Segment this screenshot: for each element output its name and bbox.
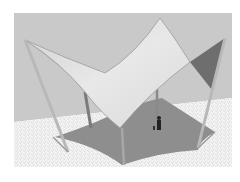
shade-structure-render (0, 0, 240, 182)
render-canvas (0, 0, 240, 182)
